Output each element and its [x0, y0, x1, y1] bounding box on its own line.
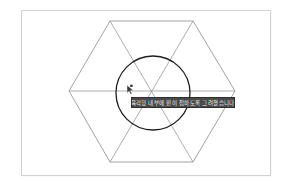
measurement-tooltip: 육각형 내부에 원이 접하도록 그려졌습니다 [131, 97, 235, 108]
app-root: 육각형 내부에 원이 접하도록 그려졌습니다 [0, 0, 292, 186]
arrow-cursor-icon [125, 84, 137, 96]
tooltip-label: 육각형 내부에 원이 접하도록 그려졌습니다 [131, 98, 235, 106]
drawing-canvas[interactable] [21, 10, 271, 176]
